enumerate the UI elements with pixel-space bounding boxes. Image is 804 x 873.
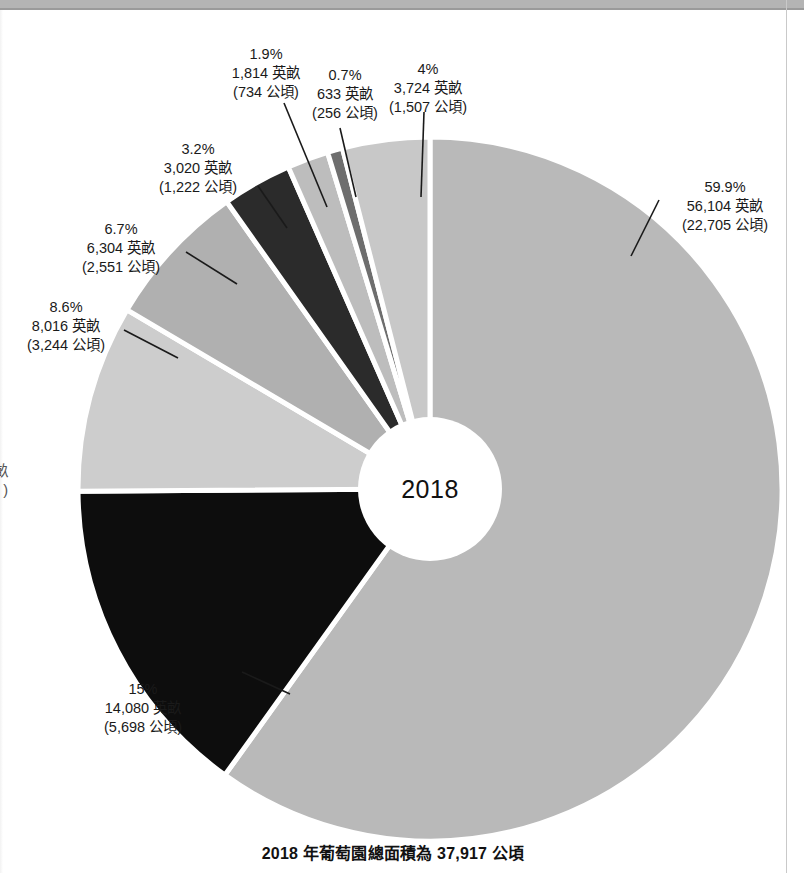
callout-slice-8: 4% 3,724 英畝 (1,507 公頃) [367,60,489,117]
callout-slice-2-percent: 15% [58,680,228,699]
callout-slice-1-percent: 59.9% [651,178,799,197]
donut-chart: 2018 59.9% 56,104 英畝 (22,705 公頃) 15% 14,… [0,0,804,873]
callout-slice-8-hectares: (1,507 公頃) [367,98,489,117]
callout-slice-3-hectares: (3,244 公頃) [6,336,126,355]
callout-slice-5-acres: 3,020 英畝 [137,159,259,178]
callout-slice-1: 59.9% 56,104 英畝 (22,705 公頃) [651,178,799,235]
callout-clipped-left-hectares: ) [3,482,8,498]
callout-slice-4-acres: 6,304 英畝 [60,239,182,258]
callout-slice-1-hectares: (22,705 公頃) [651,216,799,235]
callout-slice-3: 8.6% 8,016 英畝 (3,244 公頃) [6,298,126,355]
callout-slice-2-hectares: (5,698 公頃) [58,718,228,737]
donut-chart-svg [0,0,804,873]
callout-slice-3-percent: 8.6% [6,298,126,317]
callout-clipped-left-acres: 畝 [0,463,8,479]
callout-slice-8-acres: 3,724 英畝 [367,79,489,98]
chart-caption: 2018 年葡萄園總面積為 37,917 公頃 [0,840,786,864]
callout-slice-2: 15% 14,080 英畝 (5,698 公頃) [58,680,228,737]
callout-slice-5-percent: 3.2% [137,140,259,159]
donut-center-year: 2018 [380,468,480,510]
callout-slice-1-acres: 56,104 英畝 [651,197,799,216]
callout-slice-6-percent: 1.9% [205,45,327,64]
callout-slice-2-acres: 14,080 英畝 [58,699,228,718]
callout-slice-4: 6.7% 6,304 英畝 (2,551 公頃) [60,220,182,277]
callout-slice-4-percent: 6.7% [60,220,182,239]
callout-slice-8-percent: 4% [367,60,489,79]
callout-clipped-left: 畝 ) [0,462,8,500]
page-canvas: 2018 59.9% 56,104 英畝 (22,705 公頃) 15% 14,… [0,0,804,873]
callout-slice-4-hectares: (2,551 公頃) [60,258,182,277]
callout-slice-3-acres: 8,016 英畝 [6,317,126,336]
callout-slice-5: 3.2% 3,020 英畝 (1,222 公頃) [137,140,259,197]
callout-slice-5-hectares: (1,222 公頃) [137,178,259,197]
